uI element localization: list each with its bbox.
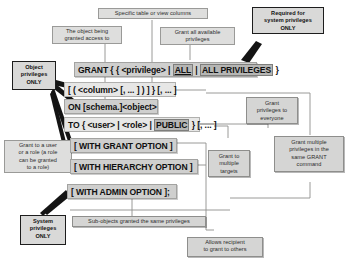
note-required-system-privileges: Required for system privileges ONLY [252,7,324,34]
to-pipe-2: | [149,120,151,130]
to-close: } [, ... ] [192,120,217,130]
note-grant-to-multiple-targets: Grant to multiple targets [208,150,250,177]
to-user: <user> [87,120,115,130]
diagram-canvas: Specific table or view columns The objec… [0,0,353,269]
note-sub-objects: Sub-objects granted the same privileges [72,216,206,227]
grant-close-brace: } [275,65,278,75]
note-grant-to-everyone: Grant privileges to everyone [246,97,298,124]
with-hierarchy-option-text: [ WITH HIERARCHY OPTION ] [74,162,193,172]
on-clause-text: ON [schema.]<object> [68,102,157,112]
syntax-line-grant: GRANT { { <privilege> | ALL | ALL PRIVIL… [74,62,257,77]
grant-all-token: ALL [173,64,193,76]
grant-open-braces: { { [110,65,119,75]
grant-keyword: GRANT [78,65,108,75]
with-grant-option-text: [ WITH GRANT OPTION ] [74,141,173,151]
to-open-brace: { [82,120,85,130]
note-grant-multiple-privileges: Grant multiple privileges in the same GR… [274,136,344,172]
grant-privilege: <privilege> [121,65,165,75]
grant-all-privileges-token: ALL PRIVILEGES [200,64,273,76]
note-grant-all-available: Grant all available privileges [160,27,235,45]
grant-pipe-1: | [168,65,170,75]
syntax-line-to: TO { <user> | <role> | PUBLIC } [, ... ] [64,117,200,132]
grant-pipe-2: | [195,65,197,75]
note-specific-columns: Specific table or view columns [98,8,208,19]
note-object-being-granted: The object being granted access to [52,26,122,44]
column-clause-text: [ ( <column> [, ... ] ) ] } [, ... ] [68,85,177,95]
syntax-line-with-grant-option: [ WITH GRANT OPTION ] [70,138,177,153]
to-keyword: TO [68,120,80,130]
note-system-privileges-only: System privileges ONLY [20,215,66,245]
syntax-line-on: ON [schema.]<object> [64,99,158,114]
note-grant-to-user-or-role: Grant to a user or a role (a role can be… [4,140,72,173]
syntax-line-with-hierarchy-option: [ WITH HIERARCHY OPTION ] [70,159,198,174]
syntax-line-column: [ ( <column> [, ... ] ) ] } [, ... ] [64,82,176,97]
to-pipe-1: | [117,120,119,130]
syntax-line-with-admin-option: [ WITH ADMIN OPTION ]; [67,184,177,199]
to-public-token: PUBLIC [154,119,189,131]
with-admin-option-text: [ WITH ADMIN OPTION ]; [71,187,170,197]
to-role: <role> [122,120,147,130]
note-allows-recipient: Allows recipient to grant to others [187,237,263,257]
note-object-privileges-only: Object privileges ONLY [12,61,56,90]
